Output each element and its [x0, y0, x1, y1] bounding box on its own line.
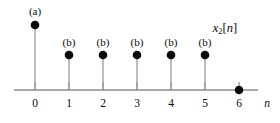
x-tick-label-1: 1 [66, 98, 72, 110]
x-axis-variable-label: n [264, 98, 270, 110]
sample-dot-n5 [201, 51, 210, 60]
x-tick-label-5: 5 [202, 98, 208, 110]
stem-lines [35, 25, 205, 90]
sample-dot-n6 [235, 86, 244, 95]
sample-dot-n4 [167, 51, 176, 60]
x-tick-label-4: 4 [168, 98, 174, 110]
x-tick-label-0: 0 [32, 98, 38, 110]
annotation-label-n2: (b) [97, 37, 110, 48]
annotation-label-n1: (b) [63, 37, 76, 48]
sample-dot-n0 [31, 21, 40, 30]
stem-plot-figure: (a) (b) (b) (b) (b) (b) 0 1 2 3 4 5 6 x2… [0, 0, 280, 123]
sample-dot-n1 [65, 51, 74, 60]
signal-name-label: x2[n] [213, 22, 237, 36]
sample-dot-n3 [133, 51, 142, 60]
annotation-label-n0: (a) [29, 6, 41, 17]
x-tick-label-2: 2 [100, 98, 106, 110]
annotation-label-n4: (b) [165, 37, 178, 48]
annotation-label-n3: (b) [131, 37, 144, 48]
annotation-label-n5: (b) [199, 37, 212, 48]
x-tick-label-6: 6 [236, 98, 242, 110]
x-tick-label-3: 3 [134, 98, 140, 110]
sample-dot-n2 [99, 51, 108, 60]
signal-name-close-bracket: ] [233, 21, 237, 35]
